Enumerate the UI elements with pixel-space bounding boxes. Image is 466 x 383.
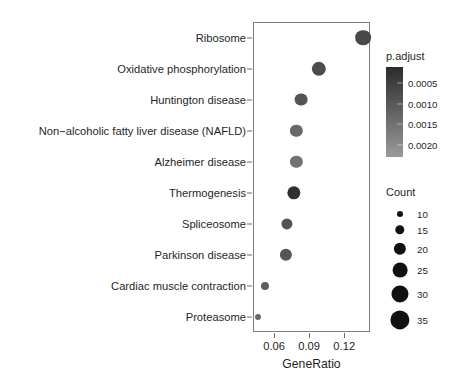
size-legend-key-dot: [391, 285, 408, 302]
size-legend-key-label: 35: [417, 315, 428, 326]
size-legend-key-dot: [395, 225, 404, 234]
y-axis-tick-label: Cardiac muscle contraction: [111, 280, 246, 292]
legend-count: Count 101520253035: [386, 186, 462, 325]
color-legend-tick-mark: [397, 144, 403, 145]
size-legend-key-dot: [397, 211, 403, 217]
data-point: [255, 314, 261, 320]
y-axis-tick-mark: [247, 192, 252, 193]
size-legend-key-dot: [393, 263, 408, 278]
legend-p-adjust-title: p.adjust: [386, 50, 458, 62]
y-axis-tick-label: Thermogenesis: [169, 187, 246, 199]
color-legend-tick-label: 0.0005: [408, 78, 437, 89]
y-axis-tick-mark: [247, 130, 252, 131]
x-axis-title: GeneRatio: [253, 357, 370, 371]
y-axis-tick-mark: [247, 37, 252, 38]
legend-count-body: 101520253035: [386, 203, 462, 325]
y-axis-labels: RibosomeOxidative phosphorylationHunting…: [0, 22, 246, 332]
size-legend-key-label: 10: [417, 209, 428, 220]
size-legend-key-label: 20: [417, 243, 428, 254]
y-axis-tick-label: Ribosome: [196, 32, 246, 44]
dotplot-figure: RibosomeOxidative phosphorylationHunting…: [0, 0, 466, 383]
y-axis-tick-label: Spliceosome: [182, 218, 246, 230]
color-legend-tick-mark: [397, 124, 403, 125]
color-legend-tick-label: 0.0015: [408, 119, 437, 130]
y-axis-tick-label: Parkinson disease: [155, 249, 246, 261]
y-axis-tick-label: Oxidative phosphorylation: [117, 63, 246, 75]
legend-p-adjust-body: 0.00050.00100.00150.0020: [386, 67, 458, 157]
color-legend-tick-label: 0.0010: [408, 98, 437, 109]
data-point: [355, 30, 371, 46]
legend-count-title: Count: [386, 186, 462, 198]
y-axis-tick-mark: [247, 68, 252, 69]
color-legend-tick-mark: [397, 83, 403, 84]
legend-p-adjust: p.adjust 0.00050.00100.00150.0020: [386, 50, 458, 157]
x-axis-tick-label: 0.12: [333, 340, 355, 352]
x-axis-tick-mark: [274, 333, 275, 338]
size-legend-key-dot: [390, 311, 409, 330]
size-legend-key-label: 25: [417, 265, 428, 276]
x-axis-tick-mark: [344, 333, 345, 338]
x-axis-tick-label: 0.06: [263, 340, 285, 352]
data-point: [295, 93, 308, 106]
y-axis-tick-mark: [247, 254, 252, 255]
y-axis-tick-mark: [247, 223, 252, 224]
color-legend-tick-mark: [397, 103, 403, 104]
size-legend-key-label: 30: [417, 289, 428, 300]
y-axis-tick-label: Huntington disease: [150, 94, 246, 106]
y-axis-tick-label: Alzheimer disease: [155, 156, 246, 168]
y-axis-tick-mark: [247, 99, 252, 100]
y-axis-tick-mark: [247, 161, 252, 162]
y-axis-tick-label: Proteasome: [186, 311, 246, 323]
y-axis-tick-label: Non−alcoholic fatty liver disease (NAFLD…: [39, 125, 246, 137]
y-axis-tick-mark: [247, 316, 252, 317]
x-axis-tick-label: 0.09: [298, 340, 320, 352]
color-legend-tick-label: 0.0020: [408, 139, 437, 150]
x-axis-tick-mark: [309, 333, 310, 338]
y-axis-tick-mark: [247, 285, 252, 286]
size-legend-key-label: 15: [417, 224, 428, 235]
size-legend-key-dot: [394, 242, 406, 254]
